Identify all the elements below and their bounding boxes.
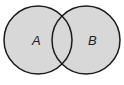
set-b-label: B: [88, 33, 97, 48]
set-a-label: A: [31, 33, 41, 48]
venn-diagram: A B: [0, 0, 124, 85]
